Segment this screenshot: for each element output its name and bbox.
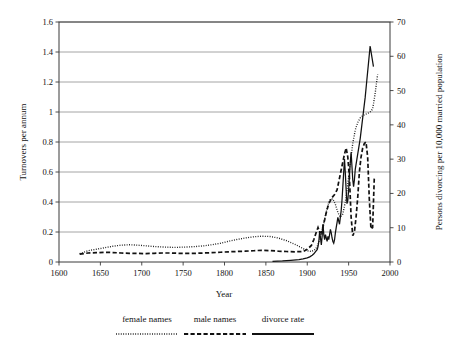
y-tick-label: 0.4 [42, 197, 53, 207]
x-tick-label: 1600 [51, 268, 68, 278]
x-tick-label: 2000 [382, 268, 399, 278]
x-tick-label: 1850 [257, 268, 274, 278]
y2-tick-label: 70 [397, 17, 406, 27]
series-line-female-names [80, 75, 378, 254]
y-tick-label: 0 [49, 257, 53, 267]
y2-axis-tick-labels: 010203040506070 [397, 17, 406, 267]
y-axis-tick-labels: 00.20.40.60.811.21.41.6 [42, 17, 53, 267]
y2-tick-label: 20 [397, 188, 406, 198]
data-series-group [80, 46, 378, 261]
series-line-male-names [80, 142, 375, 254]
chart-canvas: 00.20.40.60.811.21.41.6 010203040506070 … [0, 0, 461, 354]
chart-legend: female namesmale namesdivorce rate [116, 314, 314, 334]
y-tick-label: 0.6 [42, 167, 53, 177]
y2-tick-label: 10 [397, 223, 406, 233]
y-tick-label: 1.4 [42, 47, 53, 57]
chart-figure: 00.20.40.60.811.21.41.6 010203040506070 … [0, 0, 461, 354]
y2-tick-label: 50 [397, 86, 406, 96]
y2-tick-label: 0 [397, 257, 401, 267]
x-tick-label: 1650 [92, 268, 109, 278]
series-line-divorce-rate [273, 46, 374, 261]
tick-marks [56, 22, 394, 266]
x-tick-label: 1700 [133, 268, 150, 278]
y-tick-label: 1.6 [42, 17, 53, 27]
y-tick-label: 0.8 [42, 137, 53, 147]
x-tick-label: 1950 [340, 268, 357, 278]
y2-axis-title: Persons divorcing per 10,000 married pop… [434, 53, 444, 230]
x-axis-title: Year [216, 289, 233, 299]
y2-tick-label: 40 [397, 120, 406, 130]
legend-label-female-names: female names [122, 314, 172, 324]
y-tick-label: 1 [49, 107, 53, 117]
y-tick-label: 0.2 [42, 227, 53, 237]
grid-group [59, 22, 390, 232]
legend-label-male-names: male names [194, 314, 237, 324]
y-tick-label: 1.2 [42, 77, 53, 87]
x-axis-tick-labels: 160016501700175018001850190019502000 [51, 268, 399, 278]
y-axis-title: Turnovers per annum [18, 103, 28, 180]
x-tick-label: 1900 [299, 268, 316, 278]
legend-label-divorce-rate: divorce rate [262, 314, 305, 324]
x-tick-label: 1800 [216, 268, 233, 278]
x-tick-label: 1750 [175, 268, 192, 278]
y2-tick-label: 60 [397, 51, 406, 61]
y2-tick-label: 30 [397, 154, 406, 164]
